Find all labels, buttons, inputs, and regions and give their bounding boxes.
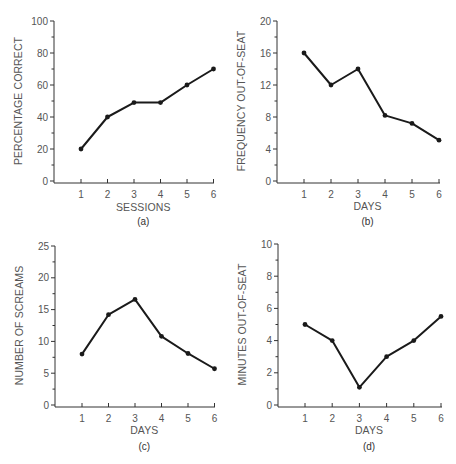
x-tick-label: 6 — [436, 189, 442, 200]
x-axis-title: DAYS — [130, 424, 158, 436]
y-tick-label: 20 — [38, 272, 50, 283]
y-axis-title: NUMBER OF SCREAMS — [13, 266, 25, 386]
data-point-marker — [186, 351, 191, 356]
x-tick-label: 4 — [159, 413, 165, 424]
panel-label: (a) — [137, 216, 149, 227]
series-line — [304, 53, 439, 140]
x-tick-label: 2 — [329, 413, 335, 424]
x-tick-label: 6 — [211, 189, 217, 200]
y-tick-label: 20 — [37, 144, 49, 155]
panel-label: (d) — [363, 441, 375, 452]
x-tick-label: 2 — [328, 189, 334, 200]
chart-panel-b: 048121620 123456 FREQUENCY OUT-OF-SEAT D… — [235, 16, 442, 228]
panel-label: (c) — [138, 441, 150, 452]
data-series — [79, 67, 216, 152]
chart-panel-d: 0246810 123456 MINUTES OUT-OF-SEAT DAYS … — [236, 239, 444, 453]
y-tick-label: 15 — [38, 304, 50, 315]
y-tick-label: 25 — [38, 241, 50, 252]
figure-canvas: 020406080100 123456 PERCENTAGE CORRECT S… — [0, 0, 456, 464]
x-tick-label: 3 — [131, 189, 137, 200]
y-tick-label: 4 — [266, 335, 272, 346]
panel-label: (b) — [361, 216, 373, 227]
data-point-marker — [410, 121, 415, 126]
y-axis-title: MINUTES OUT-OF-SEAT — [236, 263, 248, 385]
data-point-marker — [79, 147, 84, 152]
series-line — [81, 69, 214, 149]
series-line — [305, 316, 441, 387]
y-tick-label: 10 — [38, 336, 50, 347]
y-tick-label: 80 — [37, 48, 49, 59]
x-tick-label: 2 — [106, 413, 112, 424]
chart-panel-c: 0510152025 123456 NUMBER OF SCREAMS DAYS… — [13, 241, 218, 453]
data-point-marker — [133, 297, 138, 302]
x-axis-title: DAYS — [355, 424, 383, 436]
y-tick-label: 0 — [265, 176, 271, 187]
y-tick-label: 12 — [260, 80, 272, 91]
y-tick-label: 0 — [266, 400, 272, 411]
data-point-marker — [302, 51, 307, 56]
y-axis: 0510152025 — [38, 241, 55, 411]
x-tick-label: 1 — [78, 189, 84, 200]
y-tick-label: 60 — [37, 80, 49, 91]
y-tick-label: 5 — [43, 368, 49, 379]
data-point-marker — [211, 67, 216, 72]
x-axis-title: DAYS — [353, 200, 381, 212]
data-point-marker — [356, 67, 361, 72]
y-tick-label: 20 — [260, 16, 272, 27]
data-point-marker — [303, 322, 308, 327]
y-tick-label: 8 — [265, 112, 271, 123]
y-axis: 020406080100 — [31, 16, 54, 187]
data-point-marker — [185, 83, 190, 88]
y-tick-label: 0 — [42, 176, 48, 187]
x-tick-label: 3 — [132, 413, 138, 424]
y-tick-label: 100 — [31, 16, 48, 27]
data-point-marker — [212, 366, 217, 371]
chart-panel-a: 020406080100 123456 PERCENTAGE CORRECT S… — [12, 16, 217, 228]
data-point-marker — [411, 338, 416, 343]
x-tick-label: 6 — [438, 413, 444, 424]
data-point-marker — [439, 314, 444, 319]
x-axis: 123456 — [54, 179, 217, 200]
data-point-marker — [329, 83, 334, 88]
x-tick-label: 1 — [301, 189, 307, 200]
data-point-marker — [384, 354, 389, 359]
data-point-marker — [437, 138, 442, 143]
data-point-marker — [158, 100, 163, 105]
x-tick-label: 4 — [382, 189, 388, 200]
data-point-marker — [80, 352, 85, 357]
data-point-marker — [159, 334, 164, 339]
y-tick-label: 6 — [266, 303, 272, 314]
x-tick-label: 6 — [212, 413, 218, 424]
x-axis: 123456 — [55, 403, 218, 424]
x-tick-label: 1 — [302, 413, 308, 424]
y-tick-label: 40 — [37, 112, 49, 123]
y-axis-title: PERCENTAGE CORRECT — [12, 36, 24, 165]
y-axis: 048121620 — [260, 16, 277, 187]
y-tick-label: 8 — [266, 271, 272, 282]
x-tick-label: 5 — [411, 413, 417, 424]
y-tick-label: 0 — [43, 400, 49, 411]
x-tick-label: 1 — [79, 413, 85, 424]
x-tick-label: 4 — [158, 189, 164, 200]
x-tick-label: 5 — [409, 189, 415, 200]
data-point-marker — [383, 113, 388, 118]
y-axis: 0246810 — [261, 239, 278, 411]
data-point-marker — [132, 100, 137, 105]
data-point-marker — [105, 115, 110, 120]
data-series — [302, 51, 442, 143]
data-series — [80, 297, 217, 371]
y-tick-label: 16 — [260, 48, 272, 59]
y-tick-label: 4 — [265, 144, 271, 155]
y-tick-label: 2 — [266, 367, 272, 378]
x-axis: 123456 — [277, 179, 442, 200]
x-axis: 123456 — [278, 403, 444, 424]
data-point-marker — [330, 338, 335, 343]
y-axis-title: FREQUENCY OUT-OF-SEAT — [235, 30, 247, 171]
x-axis-title: SESSIONS — [116, 201, 170, 213]
y-tick-label: 10 — [261, 239, 273, 250]
data-point-marker — [357, 385, 362, 390]
data-point-marker — [106, 312, 111, 317]
data-series — [303, 314, 444, 390]
x-tick-label: 5 — [185, 413, 191, 424]
x-tick-label: 2 — [105, 189, 111, 200]
